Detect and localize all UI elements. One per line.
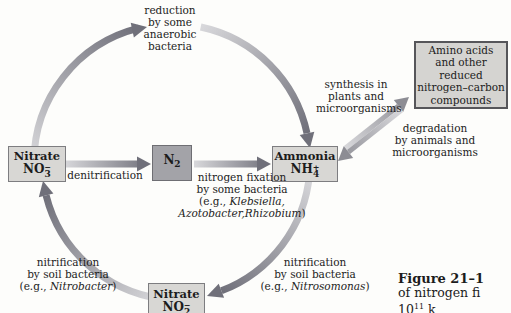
figure-caption-title: Figure 21–1 [398, 271, 511, 286]
n2-formula: N2 [163, 154, 180, 171]
label-reduction: reduction by some anaerobic bacteria [128, 4, 212, 52]
figure-caption: Figure 21–1 of nitrogen fi 1011 k [398, 271, 511, 313]
fixation-arrowhead-icon [257, 157, 271, 172]
figure-caption-line3: 1011 k [398, 300, 511, 313]
reduction-arc-arrow [34, 28, 139, 162]
nitrite-box: Nitrate NO−2 [148, 283, 205, 313]
nitrate-arrowhead-icon [39, 181, 54, 197]
nitrite-formula: NO−2 [162, 301, 190, 313]
label-nitrification-nitrobacter: nitrification by soil bacteria (e.g., Ni… [14, 256, 122, 292]
label-synthesis: synthesis in plants and microorganisms [316, 78, 396, 114]
label-nitrogen-fixation: nitrogen fixation by some bacteria (e.g.… [178, 171, 306, 219]
nitrogen-cycle-diagram: Nitrate NO−3 N2 Ammonia NH+4 Nitrate NO−… [0, 0, 511, 313]
figure-caption-line2: of nitrogen fi [398, 286, 511, 300]
nitrate-formula: NO−3 [23, 163, 51, 179]
label-degradation: degradation by animals and microorganism… [385, 122, 485, 158]
amino-acids-box: Amino acids and other reduced nitrogen–c… [414, 41, 508, 109]
reduction-to-ammonia-arc-arrow [201, 27, 307, 133]
label-nitrification-nitrosomonas: nitrification by soil bacteria (e.g., Ni… [252, 256, 378, 292]
label-denitrification: denitrification [58, 169, 152, 181]
